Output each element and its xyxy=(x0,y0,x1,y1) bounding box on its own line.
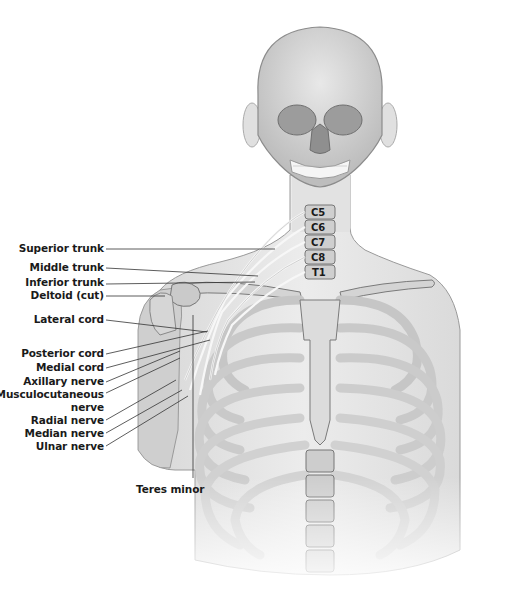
vertebra-label-c5: C5 xyxy=(311,207,325,218)
vertebra-label-t1: T1 xyxy=(312,267,326,278)
label-musculocutaneous-nerve-line2: nerve xyxy=(71,401,104,413)
label-musculocutaneous-nerve: Musculocutaneous xyxy=(0,388,104,400)
label-axillary-nerve: Axillary nerve xyxy=(23,375,104,387)
label-medial-cord: Medial cord xyxy=(36,361,104,373)
vertebra-label-c7: C7 xyxy=(311,237,325,248)
label-posterior-cord: Posterior cord xyxy=(21,347,104,359)
label-inferior-trunk: Inferior trunk xyxy=(25,276,104,288)
vertebra-label-c6: C6 xyxy=(311,222,325,233)
label-lateral-cord: Lateral cord xyxy=(34,313,104,325)
label-middle-trunk: Middle trunk xyxy=(30,261,104,273)
label-median-nerve: Median nerve xyxy=(25,427,104,439)
label-superior-trunk: Superior trunk xyxy=(19,242,104,254)
label-deltoid-cut: Deltoid (cut) xyxy=(31,289,104,301)
label-ulnar-nerve: Ulnar nerve xyxy=(36,440,104,452)
label-radial-nerve: Radial nerve xyxy=(31,414,104,426)
vertebra-label-c8: C8 xyxy=(311,252,325,263)
label-teres-minor: Teres minor xyxy=(136,483,204,495)
